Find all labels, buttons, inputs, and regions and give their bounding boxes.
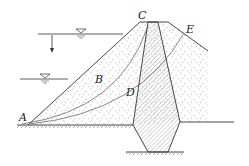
drawdown-arrow-icon (50, 35, 54, 53)
dam-shell (28, 22, 208, 125)
label-C: C (138, 9, 147, 22)
label-A: A (18, 111, 27, 124)
label-E: E (185, 23, 194, 36)
dam-diagram: A B C D E (0, 0, 249, 166)
upper-water-level (38, 29, 123, 38)
ground-left (17, 125, 133, 128)
foundation-base (126, 152, 184, 155)
label-B: B (94, 73, 103, 86)
lower-water-level (20, 74, 68, 83)
label-D: D (125, 86, 135, 99)
